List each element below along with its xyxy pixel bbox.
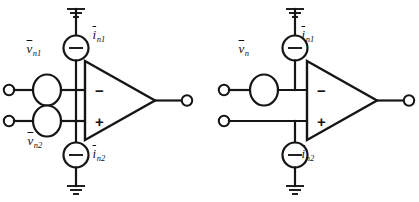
output-terminal-left[interactable] [182, 95, 192, 105]
label-in2-left: in2 [92, 147, 105, 160]
input-terminal-inverting-left[interactable] [4, 85, 14, 95]
input-terminal-inverting-right[interactable] [219, 85, 229, 95]
output-terminal-right[interactable] [404, 95, 414, 105]
voltage-source-vn1-left [33, 75, 61, 106]
opamp-noninverting-sign-right: + [317, 113, 326, 130]
input-terminal-noninverting-left[interactable] [4, 116, 14, 126]
label-in1-right: in1 [301, 28, 314, 41]
label-in2-right: in2 [301, 147, 314, 160]
input-terminal-noninverting-right[interactable] [219, 116, 229, 126]
label-vn1-left: vn1 [26, 42, 41, 55]
label-vn2-left: vn2 [27, 134, 42, 147]
ground-icon-bottom-left [67, 186, 85, 194]
ground-icon-bottom-right [286, 186, 304, 194]
voltage-source-vn-right [250, 75, 278, 106]
label-in1-left: in1 [92, 28, 105, 41]
voltage-source-vn2-left [33, 106, 61, 137]
circuit-figure: − + vn1 in1 vn2 in2 [0, 0, 419, 202]
label-vn-right: vn [238, 42, 249, 55]
opamp-noninverting-sign-left: + [95, 113, 104, 130]
opamp-inverting-sign-right: − [317, 82, 326, 99]
opamp-inverting-sign-left: − [95, 82, 104, 99]
current-source-in2-left [64, 143, 89, 168]
right-circuit-diagram: − + [210, 0, 419, 202]
current-source-in1-left [64, 36, 89, 61]
